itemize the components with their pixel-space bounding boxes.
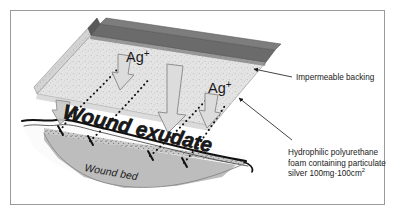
figure-root: Ag+ Ag+ Wound exudate Wound bed Impermea… <box>0 0 402 220</box>
wound-dressing-diagram: Ag+ Ag+ Wound exudate Wound bed Impermea… <box>0 0 402 220</box>
impermeable-backing-label: Impermeable backing <box>296 73 375 82</box>
